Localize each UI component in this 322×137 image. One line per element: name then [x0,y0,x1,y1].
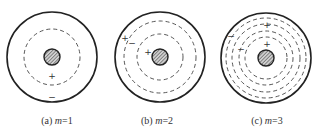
caption-c: (c) m=3 [251,115,282,126]
plus-sign: + [144,47,152,57]
hatched-core [44,49,60,65]
caption-a-value: =1 [62,115,73,126]
caption-c-prefix: (c) [251,115,265,126]
panel-a-m1: +− [7,12,97,102]
caption-b-value: =2 [162,115,173,126]
hatched-core [258,50,274,66]
plus-sign: + [48,71,56,81]
caption-b-prefix: (b) [141,115,155,126]
minus-sign: − [128,38,136,48]
caption-c-variable: m [265,115,272,126]
plus-sign: + [263,20,271,30]
caption-a-variable: m [55,115,62,126]
caption-a: (a) m=1 [41,115,72,126]
minus-sign: − [237,44,245,54]
caption-a-prefix: (a) [41,115,55,126]
caption-c-value: =3 [272,115,283,126]
caption-b: (b) m=2 [141,115,173,126]
panel-b-m2: +−+ [115,12,205,102]
panel-c-m3: ++−− [221,13,311,103]
minus-sign: − [48,92,56,102]
plus-sign: + [263,39,271,49]
minus-sign: − [227,31,235,41]
hatched-core [152,49,168,65]
